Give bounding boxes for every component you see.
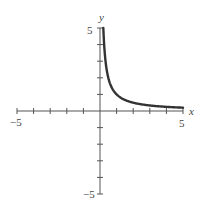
- x-tick-label-max: 5: [179, 117, 185, 129]
- function-graph: y x −5 5 5 −5: [0, 0, 205, 211]
- y-tick-label-min: −5: [83, 188, 95, 200]
- x-axis-label: x: [188, 105, 194, 117]
- x-tick-label-min: −5: [10, 116, 22, 128]
- curve-series: [103, 28, 183, 108]
- y-tick-label-max: 5: [87, 24, 93, 36]
- axes: [17, 28, 183, 194]
- y-axis-label: y: [98, 11, 104, 23]
